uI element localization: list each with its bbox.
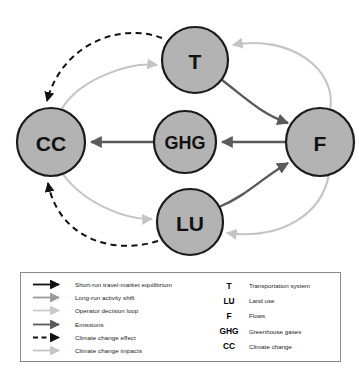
edge-cc-to-lu [62, 173, 152, 219]
node-t-label: T [189, 50, 202, 73]
abbr-item-cc: CC Climate change [209, 339, 339, 354]
abbr-item-ghg: GHG Greenhouse gases [209, 324, 339, 339]
edge-cc-to-t [61, 65, 157, 110]
abbr-desc-cc: Climate change [249, 343, 292, 350]
legend-item-long-run: Long-run activity shift [29, 291, 209, 304]
legend-label-emissions: Emissions [75, 321, 104, 328]
legend-abbreviations: T Transportation system LU Land use F Fl… [209, 278, 339, 354]
legend-swatch-short-run [29, 278, 69, 291]
abbr-item-lu: LU Land use [209, 293, 339, 308]
legend-label-long-run: Long-run activity shift [75, 294, 135, 301]
legend-swatch-cc-effect [29, 331, 69, 344]
edge-t-to-f [222, 80, 288, 123]
legend-item-cc-impacts: Climate change impacts [29, 344, 209, 357]
abbr-desc-f: Flows [249, 312, 265, 319]
node-f[interactable]: F [286, 108, 354, 176]
legend-item-short-run: Short-run travel-market equilibrium [29, 278, 209, 291]
legend-swatch-emissions [29, 318, 69, 331]
figure-canvas: T CC GHG F LU [0, 0, 359, 373]
diagram-graph: T CC GHG F LU [0, 0, 359, 275]
legend-item-cc-effect: Climate change effect [29, 331, 209, 344]
abbr-item-f: F Flows [209, 308, 339, 323]
legend-swatch-operator-loop [29, 304, 69, 317]
legend-label-cc-effect: Climate change effect [75, 334, 136, 341]
legend-label-operator-loop: Operator decision loop [75, 307, 138, 314]
node-t[interactable]: T [162, 27, 228, 93]
legend-label-cc-impacts: Climate change impacts [75, 347, 142, 354]
legend-item-operator-loop: Operator decision loop [29, 304, 209, 317]
legend-item-emissions: Emissions [29, 318, 209, 331]
abbr-key-t: T [209, 281, 249, 291]
abbr-desc-ghg: Greenhouse gases [249, 328, 301, 335]
node-cc[interactable]: CC [17, 108, 85, 176]
abbr-key-lu: LU [209, 296, 249, 306]
node-lu[interactable]: LU [157, 189, 223, 255]
edge-f-to-lu [227, 174, 329, 234]
abbr-desc-lu: Land use [249, 297, 274, 304]
abbr-key-ghg: GHG [209, 326, 249, 336]
edge-lu-to-cc [48, 183, 158, 246]
abbr-desc-t: Transportation system [249, 282, 310, 289]
edge-lu-to-f [219, 163, 288, 207]
node-ghg[interactable]: GHG [154, 111, 216, 173]
node-ghg-label: GHG [164, 133, 205, 153]
node-cc-label: CC [36, 132, 66, 155]
legend-line-styles: Short-run travel-market equilibrium Long… [29, 278, 209, 357]
legend-swatch-cc-impacts [29, 344, 69, 357]
abbr-key-f: F [209, 311, 249, 321]
legend-swatch-long-run [29, 291, 69, 304]
abbr-key-cc: CC [209, 341, 249, 351]
node-f-label: F [314, 132, 327, 155]
legend-label-short-run: Short-run travel-market equilibrium [75, 281, 172, 288]
edge-t-to-cc [47, 33, 162, 101]
abbr-item-t: T Transportation system [209, 278, 339, 293]
legend: Short-run travel-market equilibrium Long… [20, 272, 341, 362]
node-lu-label: LU [176, 212, 204, 235]
